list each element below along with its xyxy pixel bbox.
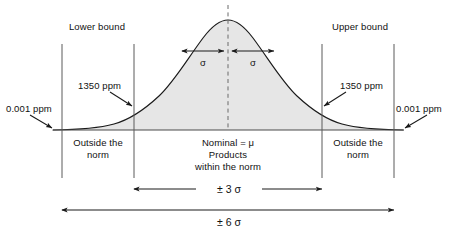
sigma-left-label: σ [200,57,206,68]
three-sigma-span-label: ± 3 σ [217,183,241,195]
outside-norm-left-line2: norm [87,149,109,161]
normal-distribution-diagram: Lower bound Upper bound 0.001 ppm 0.001 … [0,0,454,239]
ppm-outer-right-leader-arrow [405,115,427,128]
sigma-right-label: σ [250,57,256,68]
ppm-inner-left-leader-arrow [110,92,132,106]
six-sigma-span-label: ± 6 σ [217,216,241,228]
ppm-inner-right-leader-arrow [324,92,346,106]
ppm-outer-left-label: 0.001 ppm [6,103,52,115]
ppm-outer-left-leader-arrow [30,115,52,128]
nominal-label-line1: Nominal = μ [202,137,254,149]
ppm-outer-right-label: 0.001 ppm [396,103,442,115]
upper-bound-label: Upper bound [332,21,388,33]
lower-bound-label: Lower bound [69,21,125,33]
ppm-inner-right-label: 1350 ppm [340,80,383,92]
outside-norm-right-line1: Outside the [333,137,383,149]
outside-norm-left-line1: Outside the [73,137,123,149]
ppm-inner-left-label: 1350 ppm [78,80,121,92]
outside-norm-right-line2: norm [347,149,369,161]
nominal-label-line2: Products [209,149,247,161]
nominal-label-line3: within the norm [195,161,261,173]
diagram-canvas [0,0,454,239]
